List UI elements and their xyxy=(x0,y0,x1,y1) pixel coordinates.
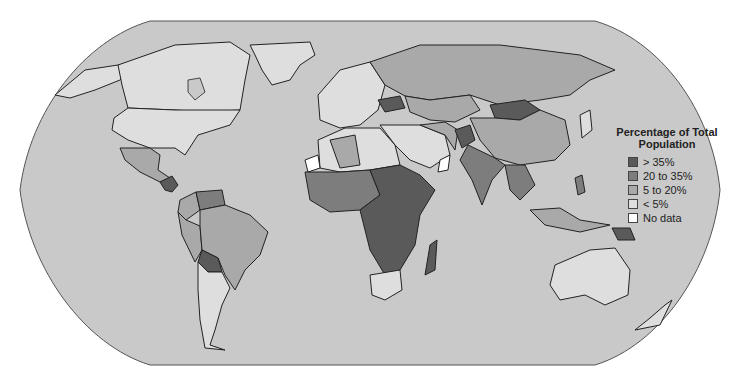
legend-swatch xyxy=(628,213,638,223)
legend-item-20-to-35: 20 to 35% xyxy=(628,169,722,182)
legend-title: Percentage of Total Population xyxy=(612,126,722,150)
legend-item-over-35: > 35% xyxy=(628,155,722,168)
legend-label: No data xyxy=(643,212,682,224)
legend: Percentage of Total Population > 35% 20 … xyxy=(612,126,722,225)
legend-swatch xyxy=(628,157,638,167)
legend-swatch xyxy=(628,199,638,209)
legend-title-line-2: Population xyxy=(612,138,722,150)
legend-title-line-1: Percentage of Total xyxy=(612,126,722,138)
legend-swatch xyxy=(628,185,638,195)
legend-items: > 35% 20 to 35% 5 to 20% < 5% No data xyxy=(628,155,722,224)
legend-label: < 5% xyxy=(643,198,668,210)
legend-item-no-data: No data xyxy=(628,211,722,224)
legend-item-5-to-20: 5 to 20% xyxy=(628,183,722,196)
legend-swatch xyxy=(628,171,638,181)
legend-label: 20 to 35% xyxy=(643,170,693,182)
legend-label: > 35% xyxy=(643,156,675,168)
legend-item-under-5: < 5% xyxy=(628,197,722,210)
legend-label: 5 to 20% xyxy=(643,184,686,196)
